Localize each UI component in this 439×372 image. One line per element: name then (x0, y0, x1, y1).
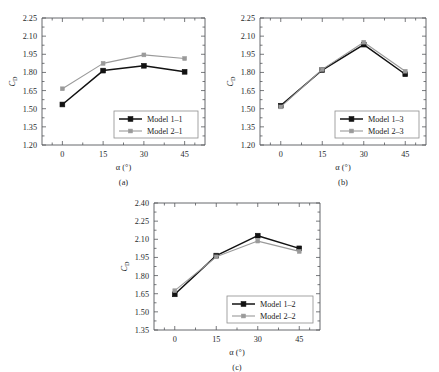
series-line (62, 55, 184, 89)
x-axis-title: α (°) (229, 348, 245, 357)
legend-label: Model 2–2 (260, 312, 296, 321)
y-tick-label: 1.65 (241, 87, 255, 96)
y-tick-label: 2.25 (135, 217, 149, 226)
data-point-marker (173, 289, 177, 293)
x-axis-title: α (°) (335, 163, 351, 172)
y-tick-label: 1.35 (135, 326, 149, 335)
y-tick-label: 2.25 (241, 14, 255, 23)
y-tick-label: 2.10 (23, 32, 37, 41)
y-tick-label: 1.50 (241, 105, 255, 114)
data-point-marker (141, 63, 146, 68)
data-point-marker (182, 69, 187, 74)
series-line (281, 45, 406, 106)
y-tick-label: 1.65 (23, 87, 37, 96)
chart-panel-c: 1.351.501.651.801.952.102.252.400153045M… (108, 187, 333, 372)
legend-swatch-marker (241, 302, 246, 307)
data-point-marker (297, 249, 301, 253)
y-tick-label: 1.80 (135, 272, 149, 281)
legend-label: Model 2–1 (147, 127, 183, 136)
x-axis-title: α (°) (116, 163, 132, 172)
y-tick-label: 1.20 (241, 141, 255, 150)
y-tick-label: 1.50 (23, 105, 37, 114)
legend-label: Model 1–1 (147, 115, 183, 124)
data-point-marker (320, 68, 324, 72)
legend-label: Model 1–3 (368, 115, 404, 124)
legend-label: Model 1–2 (260, 300, 296, 309)
x-tick-label: 15 (99, 150, 107, 159)
panel-caption: (a) (119, 178, 129, 187)
legend-swatch-marker (128, 117, 133, 122)
chart-panel-b: 1.201.351.501.651.801.952.102.250153045M… (218, 2, 439, 187)
y-tick-label: 1.65 (135, 290, 149, 299)
data-point-marker (279, 105, 283, 109)
chart-a-svg: 1.201.351.501.651.801.952.102.250153045M… (0, 2, 218, 187)
y-tick-label: 1.80 (241, 68, 255, 77)
panel-caption: (c) (232, 363, 242, 372)
y-tick-label: 1.95 (135, 253, 149, 262)
x-tick-label: 30 (360, 150, 368, 159)
data-point-marker (142, 53, 146, 57)
series-line (281, 42, 406, 107)
x-tick-label: 45 (295, 335, 303, 344)
data-point-marker (403, 69, 407, 73)
x-tick-label: 30 (254, 335, 262, 344)
legend-swatch-marker (349, 117, 354, 122)
legend-swatch-marker (350, 129, 354, 133)
legend-label: Model 2–3 (368, 127, 404, 136)
y-tick-label: 1.95 (241, 50, 255, 59)
y-tick-label: 1.80 (23, 68, 37, 77)
legend-swatch-marker (129, 129, 133, 133)
data-point-marker (214, 255, 218, 259)
chart-a-plot-area: 1.201.351.501.651.801.952.102.250153045M… (8, 14, 205, 187)
figure-drag-coefficient-panels: 1.201.351.501.651.801.952.102.250153045M… (0, 0, 439, 372)
series-line (62, 66, 184, 105)
y-axis-title: CD (120, 261, 130, 272)
data-point-marker (183, 57, 187, 61)
data-point-marker (362, 40, 366, 44)
y-tick-label: 2.10 (241, 32, 255, 41)
y-axis-title: CD (8, 76, 18, 87)
data-point-marker (101, 61, 105, 65)
chart-c-svg: 1.351.501.651.801.952.102.252.400153045M… (108, 187, 333, 372)
y-tick-label: 2.40 (135, 199, 149, 208)
data-point-marker (60, 87, 64, 91)
x-tick-label: 45 (401, 150, 409, 159)
series-line (175, 241, 300, 291)
data-point-marker (101, 68, 106, 73)
y-tick-label: 1.95 (23, 50, 37, 59)
x-tick-label: 15 (212, 335, 220, 344)
chart-b-svg: 1.201.351.501.651.801.952.102.250153045M… (218, 2, 439, 187)
panel-caption: (b) (338, 178, 348, 187)
x-tick-label: 45 (181, 150, 189, 159)
chart-b-plot-area: 1.201.351.501.651.801.952.102.250153045M… (226, 14, 426, 187)
x-tick-label: 15 (318, 150, 326, 159)
x-tick-label: 0 (173, 335, 177, 344)
x-tick-label: 30 (140, 150, 148, 159)
data-point-marker (60, 102, 65, 107)
x-tick-label: 0 (279, 150, 283, 159)
y-tick-label: 1.50 (135, 308, 149, 317)
chart-panel-a: 1.201.351.501.651.801.952.102.250153045M… (0, 2, 218, 187)
chart-c-plot-area: 1.351.501.651.801.952.102.252.400153045M… (120, 199, 320, 372)
data-point-marker (256, 239, 260, 243)
y-tick-label: 1.35 (241, 123, 255, 132)
legend-swatch-marker (242, 314, 246, 318)
y-tick-label: 2.25 (23, 14, 37, 23)
y-tick-label: 1.20 (23, 141, 37, 150)
x-tick-label: 0 (60, 150, 64, 159)
y-tick-label: 2.10 (135, 235, 149, 244)
series-line (175, 236, 300, 295)
data-point-marker (255, 233, 260, 238)
y-axis-title: CD (226, 76, 236, 87)
y-tick-label: 1.35 (23, 123, 37, 132)
